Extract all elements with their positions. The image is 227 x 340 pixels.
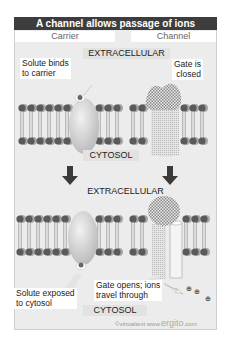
footer-credit: ©virtualtext www. (115, 321, 161, 327)
stage1-extracellular-label: EXTRACELLULAR (83, 48, 170, 59)
channel-protein-2-left (152, 224, 166, 279)
stage1-cytosol-label: CYTOSOL (83, 150, 139, 161)
solute-molecule-1 (78, 95, 83, 100)
ion-flow-arrow (165, 283, 183, 294)
stage1-carrier-callout: Solute binds to carrier (20, 58, 71, 79)
ion-icon: ⊕ (194, 287, 200, 297)
channel-gate-open (148, 196, 180, 226)
down-arrow-right (162, 166, 178, 185)
carrier-protein-1 (69, 98, 99, 154)
ion-icon: ⊕ (186, 284, 192, 294)
callout-line: to carrier (22, 69, 69, 79)
down-arrow-left (62, 166, 78, 185)
footer-brand: ergito (161, 318, 184, 328)
callout-line: travel through (96, 291, 160, 301)
stage2-extracellular-label: EXTRACELLULAR (80, 186, 171, 197)
callout-line: closed (174, 70, 201, 80)
callout-line: to cytosol (16, 299, 75, 309)
stage2-carrier-callout: Solute exposed to cytosol (14, 288, 77, 309)
ion-icon: ⊕ (205, 294, 211, 304)
footer-suffix: .com (184, 321, 197, 327)
copyright-footer: ©virtualtext www.ergito.com (115, 318, 197, 328)
channel-protein-2-right (170, 223, 182, 278)
stage1-channel-callout: Gate is closed (172, 59, 203, 80)
channel-gate-closed (146, 84, 182, 110)
stage2-channel-callout: Gate opens; ions travel through (94, 280, 162, 301)
solute-molecule-2 (79, 263, 84, 268)
stage2-cytosol-label: CYTOSOL (83, 305, 147, 316)
carrier-protein-2 (68, 211, 98, 265)
